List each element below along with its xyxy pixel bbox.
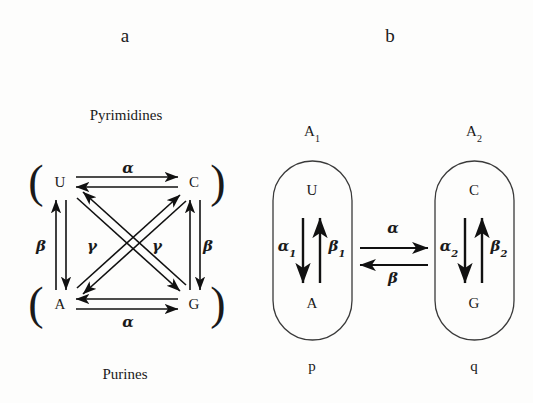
figure-root: a Pyrimidines Purines ( ) ( ) U C A G α … — [0, 0, 533, 403]
panel-b-graphics — [0, 0, 533, 403]
capsule-q — [435, 161, 514, 340]
capsule-p — [273, 161, 352, 340]
